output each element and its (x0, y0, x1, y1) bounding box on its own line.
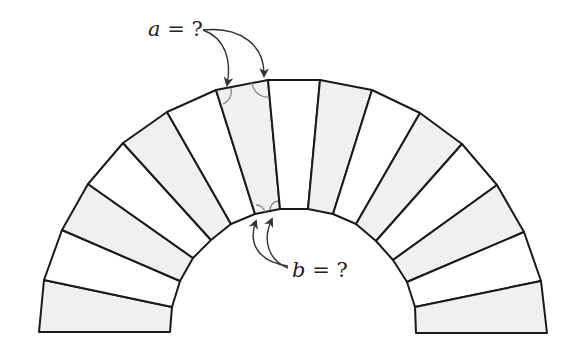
arch-diagram: a = ? b = ? (0, 0, 577, 358)
arrow-a-to-right-angle (203, 29, 264, 76)
label-b: b = ? (292, 258, 348, 282)
label-b-text: = ? (305, 258, 347, 282)
arch-blocks (39, 80, 547, 333)
arrow-b-to-left-angle (253, 221, 288, 266)
label-a: a = ? (148, 17, 203, 41)
label-a-variable: a (148, 17, 161, 41)
label-a-text: = ? (161, 17, 203, 41)
arrow-a-to-left-angle (203, 30, 229, 85)
label-b-variable: b (292, 258, 305, 282)
